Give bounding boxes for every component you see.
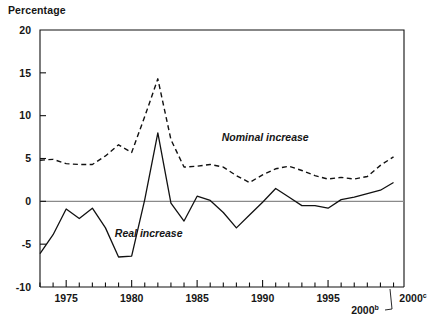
x-axis-tick-label-2000b: 2000b — [351, 304, 379, 316]
x-axis-tick-label: 1975 — [55, 292, 79, 304]
chart-container: Percentage 20151050-5-101975198019851990… — [0, 0, 429, 322]
series-line-nominal-increase — [40, 79, 394, 183]
leader-line-2000b — [385, 289, 392, 310]
annotation-nominal-increase: Nominal increase — [222, 131, 309, 143]
y-axis-tick-label: -10 — [16, 281, 31, 293]
x-axis-tick-label: 1990 — [251, 292, 275, 304]
y-axis-tick-label: 15 — [19, 67, 31, 79]
x-axis-tick-label: 1995 — [316, 292, 340, 304]
y-axis-tick-label: 20 — [19, 24, 31, 36]
x-axis-tick-label: 1985 — [185, 292, 209, 304]
y-axis-tick-label: 0 — [25, 195, 31, 207]
x-axis-tick-label-2000c: 2000c — [399, 292, 426, 304]
y-axis-tick-label: -5 — [22, 238, 31, 250]
series-line-real-increase — [40, 133, 394, 257]
chart-canvas: 20151050-5-10197519801985199019952000b20… — [0, 0, 429, 322]
y-axis-tick-label: 5 — [25, 152, 31, 164]
annotation-real-increase: Real increase — [115, 227, 183, 239]
x-axis-tick-label: 1980 — [120, 292, 144, 304]
plot-frame — [40, 30, 404, 287]
y-axis-tick-label: 10 — [19, 109, 31, 121]
